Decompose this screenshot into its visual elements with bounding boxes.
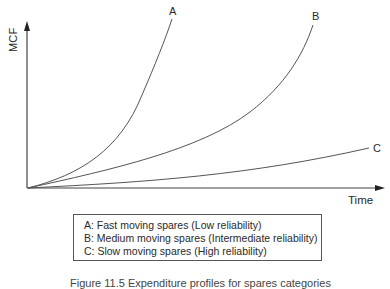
curve-b [28,25,313,188]
legend-item-b: B: Medium moving spares (Intermediate re… [84,232,321,245]
legend-item-a: A: Fast moving spares (Low reliability) [84,219,321,232]
curve-label-b: B [312,11,319,22]
x-axis-label: Time [348,195,373,207]
x-axis-arrow-icon [375,185,385,191]
figure-caption: Figure 11.5 Expenditure profiles for spa… [70,277,331,289]
legend-item-c: C: Slow moving spares (High reliability) [84,245,321,258]
curve-a [28,19,172,188]
y-axis-label: MCF [7,28,19,52]
curve-label-c: C [373,143,381,154]
legend-box: A: Fast moving spares (Low reliability) … [73,214,322,261]
y-axis-arrow-icon [24,21,30,31]
curve-label-a: A [169,6,176,17]
